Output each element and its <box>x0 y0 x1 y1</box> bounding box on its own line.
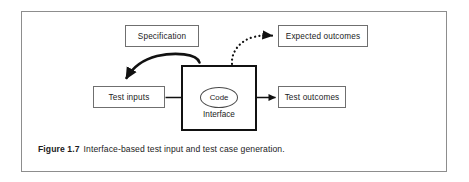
node-specification: Specification <box>125 25 199 47</box>
figure-container: Specification Expected outcomes Test inp… <box>0 0 469 182</box>
node-specification-label: Specification <box>138 32 186 41</box>
edge-interface-to-expected-outcomes <box>232 35 272 64</box>
figure-caption: Figure 1.7Interface-based test input and… <box>38 144 285 154</box>
node-test-inputs: Test inputs <box>93 86 165 108</box>
node-test-outcomes: Test outcomes <box>278 86 346 108</box>
node-test-inputs-label: Test inputs <box>109 93 150 102</box>
node-test-outcomes-label: Test outcomes <box>285 93 340 102</box>
node-interface-label: Interface <box>203 110 235 119</box>
figure-caption-text: Interface-based test input and test case… <box>84 144 285 154</box>
node-interface-label-text: Interface <box>181 110 257 119</box>
node-expected-outcomes-label: Expected outcomes <box>286 32 360 41</box>
node-code-label: Code <box>210 93 229 102</box>
node-expected-outcomes: Expected outcomes <box>278 25 368 47</box>
figure-caption-number: Figure 1.7 <box>38 144 80 154</box>
node-code-ellipse: Code <box>200 87 238 108</box>
